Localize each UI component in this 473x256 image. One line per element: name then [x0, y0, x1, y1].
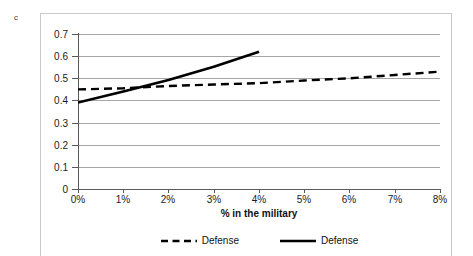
x-tick-label-2: 2% — [148, 195, 188, 205]
x-tick-8 — [440, 189, 441, 193]
y-tick-label-0.4: 0.4 — [24, 96, 68, 106]
series-defense-solid — [78, 52, 259, 103]
series-defense-dashed — [78, 72, 440, 90]
y-tick-label-0.1: 0.1 — [24, 163, 68, 173]
chart-figure: c 0.7 0.6 0.5 0.4 0.3 0.2 0.1 0 0% 1% 2%… — [0, 0, 473, 256]
legend-solid-line-icon — [279, 236, 317, 246]
y-tick-label-0: 0 — [24, 185, 68, 195]
legend-item-defense-dashed: Defense — [160, 236, 239, 246]
legend-dashed-line-icon — [160, 236, 198, 246]
x-tick-label-3: 3% — [194, 195, 234, 205]
legend-label-solid: Defense — [321, 236, 358, 246]
x-tick-label-5: 5% — [284, 195, 324, 205]
y-tick-label-0.3: 0.3 — [24, 119, 68, 129]
y-tick-label-0.7: 0.7 — [24, 30, 68, 40]
data-series-layer — [78, 34, 440, 190]
x-tick-label-7: 7% — [375, 195, 415, 205]
y-tick-label-0.5: 0.5 — [24, 74, 68, 84]
y-tick-label-0.6: 0.6 — [24, 52, 68, 62]
x-tick-label-8: 8% — [420, 195, 460, 205]
y-tick-label-0.2: 0.2 — [24, 141, 68, 151]
panel-label: c — [14, 14, 18, 22]
chart-legend: Defense Defense — [78, 236, 440, 246]
legend-item-defense-solid: Defense — [279, 236, 358, 246]
x-tick-label-6: 6% — [329, 195, 369, 205]
x-tick-label-4: 4% — [239, 195, 279, 205]
x-tick-label-1: 1% — [103, 195, 143, 205]
legend-label-dashed: Defense — [202, 236, 239, 246]
x-tick-label-0: 0% — [58, 195, 98, 205]
x-axis-title: % in the military — [78, 209, 440, 219]
